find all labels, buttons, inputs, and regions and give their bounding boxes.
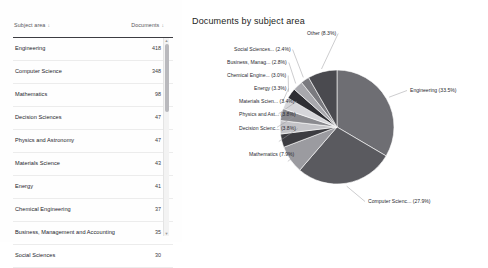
pie-slice-label: Physics and Ast... (3.8%): [239, 111, 296, 117]
row-subject-label: Energy: [15, 183, 33, 189]
scroll-down-icon[interactable]: ▼: [164, 231, 169, 236]
table-row[interactable]: Energy 41: [13, 176, 173, 199]
pie-slice-label: Decision Scienc... (3.8%): [239, 125, 296, 131]
row-documents-value: 98: [155, 91, 161, 97]
row-documents-value: 43: [155, 160, 161, 166]
pie-slice-label: Business, Manag... (2.8%): [227, 59, 287, 65]
row-subject-label: Social Sciences: [15, 252, 55, 258]
pie-chart: Engineering (33.5%)Computer Scienc... (2…: [182, 0, 488, 242]
pie-leader-line: [293, 50, 304, 78]
scroll-up-icon[interactable]: ▲: [164, 38, 169, 43]
row-subject-label: Mathematics: [15, 91, 47, 97]
table-body: Engineering 418 Computer Science 348 Mat…: [13, 38, 173, 236]
table-row[interactable]: Computer Science 348: [13, 61, 173, 84]
table-scrollbar[interactable]: ▲ ▼: [163, 38, 169, 236]
row-subject-label: Business, Management and Accounting: [15, 229, 115, 235]
pie-slice-label: Chemical Engine... (3.0%): [227, 72, 286, 78]
row-documents-value: 35: [155, 229, 161, 235]
table-row[interactable]: Business, Management and Accounting 35: [13, 222, 173, 245]
row-subject-label: Decision Sciences: [15, 114, 62, 120]
table-row[interactable]: Physics and Astronomy 47: [13, 130, 173, 153]
row-subject-label: Materials Science: [15, 160, 60, 166]
pie-slice-label: Social Sciences... (2.4%): [234, 46, 291, 52]
pie-slice-label: Energy (3.3%): [254, 85, 287, 91]
sort-down-icon[interactable]: ↓: [47, 22, 50, 28]
row-subject-label: Engineering: [15, 45, 45, 51]
pie-leader-line: [389, 91, 407, 98]
subject-area-table-panel: Subject area↓ Documents↓ Engineering 418…: [0, 0, 182, 242]
sort-down-icon[interactable]: ↓: [161, 22, 164, 28]
table-row[interactable]: Chemical Engineering 37: [13, 199, 173, 222]
column-header-subject-area[interactable]: Subject area↓: [14, 22, 50, 28]
pie-chart-svg: Engineering (33.5%)Computer Scienc... (2…: [182, 0, 488, 242]
row-documents-value: 30: [155, 252, 161, 258]
pie-slice-label: Engineering (33.5%): [410, 87, 457, 93]
table-row[interactable]: Materials Science 43: [13, 153, 173, 176]
pie-slice-label: Other (8.3%): [307, 30, 336, 36]
row-subject-label: Computer Science: [15, 68, 62, 74]
row-documents-value: 47: [155, 114, 161, 120]
row-subject-label: Physics and Astronomy: [15, 137, 74, 143]
table-row[interactable]: Decision Sciences 47: [13, 107, 173, 130]
pie-leader-line: [347, 186, 365, 201]
row-documents-value: 47: [155, 137, 161, 143]
row-documents-value: 37: [155, 206, 161, 212]
table-row[interactable]: Social Sciences 30: [13, 245, 173, 268]
row-documents-value: 348: [152, 68, 161, 74]
pie-leader-line: [322, 34, 339, 70]
row-subject-label: Chemical Engineering: [15, 206, 71, 212]
row-documents-value: 41: [155, 183, 161, 189]
table-row[interactable]: Engineering 418: [13, 38, 173, 61]
column-header-documents[interactable]: Documents↓: [131, 22, 164, 28]
pie-slices: [280, 70, 394, 184]
table-header: Subject area↓ Documents↓: [14, 22, 172, 36]
column-header-subject-area-label: Subject area: [14, 22, 45, 28]
pie-slice-label: Materials Scien... (3.4%): [239, 98, 295, 104]
chart-panel: Documents by subject area Engineering (3…: [182, 0, 488, 242]
scrollbar-thumb[interactable]: [165, 44, 169, 112]
column-header-documents-label: Documents: [131, 22, 159, 28]
table-row[interactable]: Mathematics 98: [13, 84, 173, 107]
pie-slice-label: Mathematics (7.9%): [249, 151, 295, 157]
pie-slice-label: Computer Scienc... (27.9%): [368, 198, 431, 204]
row-documents-value: 418: [152, 45, 161, 51]
pie-leader-line: [289, 63, 296, 84]
